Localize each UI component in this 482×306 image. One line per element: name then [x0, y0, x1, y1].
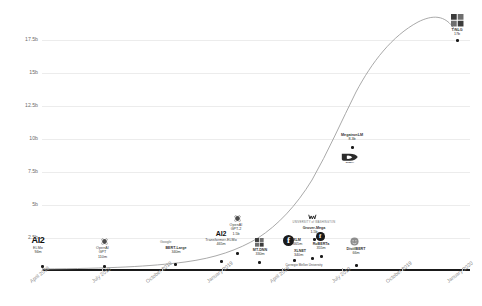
y-axis-label-17_5b: 17.5b [25, 37, 38, 42]
point-xlnet [311, 257, 314, 260]
huggingface-icon [350, 237, 359, 246]
x-axis-label-april-2018: April 2018 [29, 266, 51, 284]
y-axis-label-12_5b: 12.5b [25, 103, 38, 108]
point-bert [174, 263, 177, 266]
marker-xlnet-org: Carnegie Mellon University [283, 264, 325, 267]
svg-text:NVIDIA.: NVIDIA. [346, 161, 355, 163]
marker-xlnet-org-label: Carnegie Mellon University [283, 264, 325, 267]
marker-txelmo-size: 465m [196, 242, 246, 246]
marker-mtdnn-size: 330m [241, 252, 279, 256]
marker-elmo[interactable]: AI2 ELMo 94m [10, 235, 66, 254]
gridline-10b [42, 139, 470, 140]
marker-gpt2[interactable]: OpenAI GPT-2 1.5b [216, 223, 256, 236]
marker-bert[interactable]: BERT-Large 340m [152, 246, 200, 255]
openai-icon [101, 238, 108, 245]
point-megatron [351, 146, 354, 149]
microsoft-icon-2 [451, 14, 464, 27]
gridline-15b [42, 73, 470, 74]
gridline-12_5b [42, 106, 470, 107]
y-axis-label-10b: 10b [29, 136, 38, 141]
y-axis-label-15b: 15b [29, 70, 38, 75]
microsoft-icon [255, 238, 264, 247]
google-icon: Google [160, 240, 172, 244]
facebook-icon-2: f [316, 232, 325, 241]
marker-elmo-size: 94m [10, 250, 66, 254]
marker-elmo-org: AI2 [10, 235, 66, 246]
marker-gpt-size: 110m [80, 255, 125, 259]
openai-icon-2 [234, 215, 241, 222]
model-size-chart: 17.5b 15b 12.5b 10b 7.5b 5b 2.5b April 2… [0, 0, 482, 306]
y-axis-label-5b: 5b [32, 202, 38, 207]
nvidia-icon: NVIDIA. [340, 152, 360, 163]
x-axis: April 2018 July 2018 October 2018 Januar… [42, 270, 470, 306]
marker-bert-size: 340m [152, 250, 200, 254]
marker-gpt2-size: 1.5b [216, 232, 256, 236]
marker-distilbert-size: 66m [340, 251, 372, 255]
point-gpt2 [236, 252, 239, 255]
point-elmo [41, 265, 44, 268]
marker-mtdnn[interactable]: MT-DNN 330m [241, 248, 279, 257]
marker-megatron[interactable]: MegatronLM 8.3b [324, 133, 380, 142]
marker-grover[interactable]: Grover-Mega 1.5b [296, 226, 332, 235]
point-distilbert [355, 264, 358, 267]
point-tnlg [456, 39, 459, 42]
marker-tnlg[interactable]: T-NLG 17b [440, 28, 474, 37]
marker-grover-size: 1.5b [296, 230, 332, 234]
marker-roberta-size: 355m [309, 246, 333, 250]
gridline-7_5b [42, 172, 470, 173]
marker-distilbert[interactable]: DistilBERT 66m [340, 247, 372, 256]
marker-tnlg-size: 17b [440, 32, 474, 36]
point-roberta [320, 255, 323, 258]
marker-megatron-size: 8.3b [324, 137, 380, 141]
marker-grover-org: UNIVERSITY of WASHINGTON [290, 221, 338, 224]
point-mtdnn [258, 261, 261, 264]
plot-area [42, 14, 470, 270]
point-gpt [103, 265, 106, 268]
point-xlm [293, 259, 296, 262]
point-transformer-elmo [220, 260, 223, 263]
uw-icon [308, 214, 317, 220]
gridline-5b [42, 205, 470, 206]
y-axis-label-7_5b: 7.5b [28, 169, 38, 174]
marker-gpt[interactable]: OpenAI GPT 110m [80, 246, 125, 259]
marker-roberta[interactable]: RoBERTa 355m [309, 242, 333, 251]
gridline-17_5b [42, 40, 470, 41]
point-grover [313, 238, 316, 241]
